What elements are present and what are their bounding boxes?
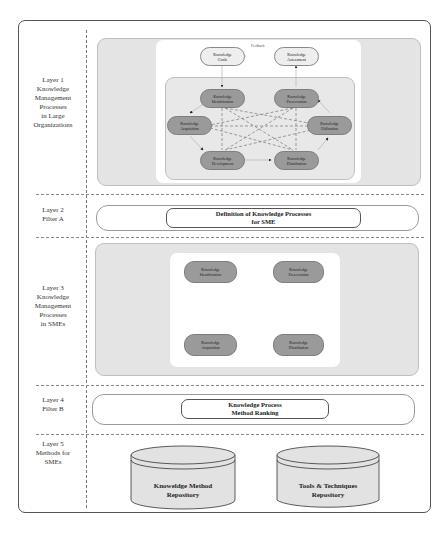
tools-techniques-repository: Tools & Techniques Repository xyxy=(285,482,371,500)
repository-cylinders xyxy=(0,0,448,533)
knowledge-method-repository: Knoweldge Method Repository xyxy=(140,482,226,500)
